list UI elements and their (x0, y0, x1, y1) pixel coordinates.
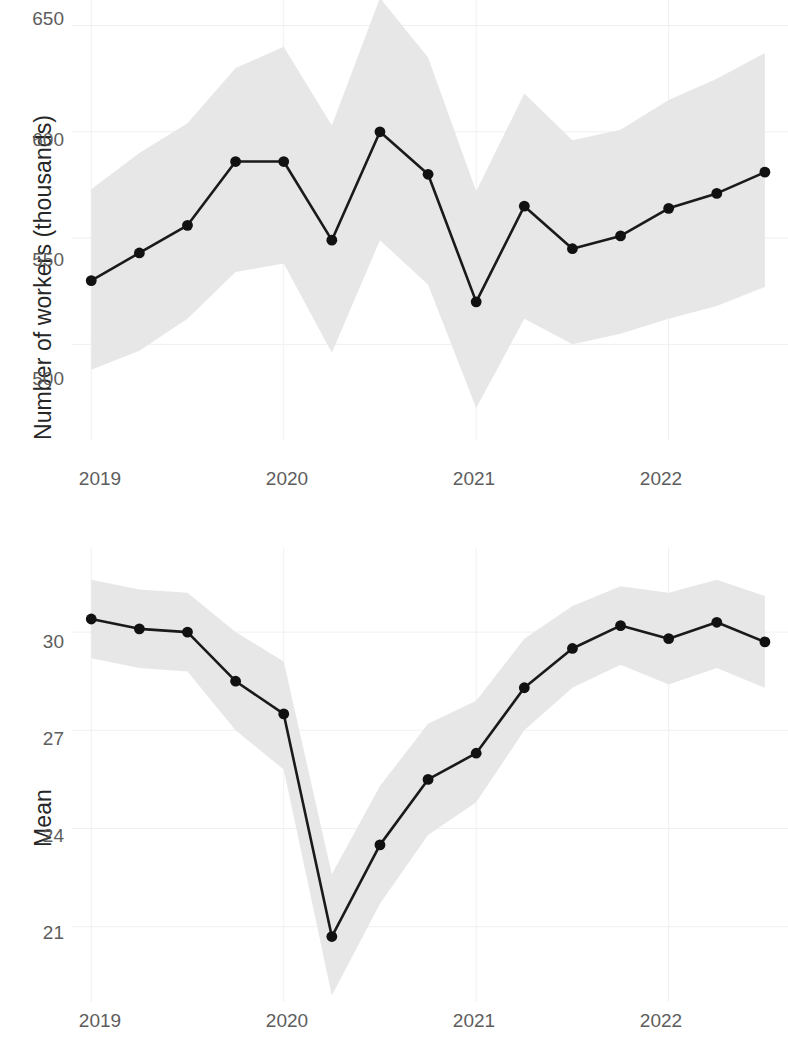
top-panel-y-axis-title: Number of workers (thousands) (30, 115, 57, 440)
data-point (760, 637, 771, 648)
data-point (471, 748, 482, 759)
data-point (182, 627, 193, 638)
top-panel: Number of workers (thousands) 650 600 55… (0, 0, 788, 510)
top-panel-confidence-band (91, 0, 765, 408)
top-panel-x-tick-2019: 2019 (70, 468, 130, 490)
data-point (423, 774, 434, 785)
data-point (663, 203, 674, 214)
top-panel-y-tick-550: 550 (8, 249, 64, 271)
data-point (567, 243, 578, 254)
bottom-panel-y-tick-27: 27 (8, 728, 64, 750)
data-point (86, 614, 97, 625)
top-panel-plot-area (72, 0, 788, 440)
bottom-panel-x-tick-2020: 2020 (257, 1010, 317, 1032)
data-point (615, 231, 626, 242)
top-panel-x-tick-2022: 2022 (631, 468, 691, 490)
data-point (182, 220, 193, 231)
data-point (326, 931, 337, 942)
data-point (711, 188, 722, 199)
data-point (663, 633, 674, 644)
data-point (134, 623, 145, 634)
data-point (471, 296, 482, 307)
top-panel-y-tick-650: 650 (8, 8, 64, 30)
data-point (375, 839, 386, 850)
data-point (230, 676, 241, 687)
top-panel-x-tick-2020: 2020 (257, 468, 317, 490)
two-panel-time-series-figure: Number of workers (thousands) 650 600 55… (0, 0, 788, 1057)
data-point (423, 169, 434, 180)
data-point (375, 126, 386, 137)
bottom-panel-confidence-band (91, 580, 765, 996)
data-point (134, 248, 145, 259)
bottom-panel-y-tick-30: 30 (8, 631, 64, 653)
top-panel-y-tick-500: 500 (8, 368, 64, 390)
bottom-panel-x-tick-2021: 2021 (444, 1010, 504, 1032)
data-point (711, 617, 722, 628)
bottom-panel-x-tick-2022: 2022 (631, 1010, 691, 1032)
data-point (278, 709, 289, 720)
bottom-panel-x-tick-2019: 2019 (70, 1010, 130, 1032)
data-point (567, 643, 578, 654)
top-panel-y-tick-600: 600 (8, 129, 64, 151)
data-point (230, 156, 241, 167)
data-point (760, 167, 771, 178)
bottom-panel: Mean 30 27 24 21 2019 2020 2021 2022 (0, 547, 788, 1057)
data-point (86, 275, 97, 286)
data-point (519, 682, 530, 693)
data-point (519, 201, 530, 212)
data-point (326, 235, 337, 246)
bottom-panel-y-tick-24: 24 (8, 825, 64, 847)
data-point (615, 620, 626, 631)
bottom-panel-y-tick-21: 21 (8, 922, 64, 944)
bottom-panel-plot-area (72, 547, 788, 1002)
top-panel-x-tick-2021: 2021 (444, 468, 504, 490)
data-point (278, 156, 289, 167)
